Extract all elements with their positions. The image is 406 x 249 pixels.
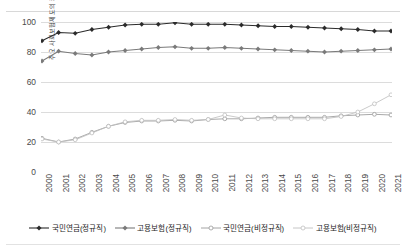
series-3-point-11 xyxy=(223,113,227,117)
series-2-point-11 xyxy=(223,117,227,121)
series-1-point-2 xyxy=(73,51,78,56)
y-tick-80: 80 xyxy=(6,48,36,56)
legend-item-3[interactable]: 고용보험(비정규직) xyxy=(293,222,377,233)
series-3-point-6 xyxy=(140,118,144,122)
series-0-point-21 xyxy=(389,29,392,34)
legend-marker-open-circle-icon xyxy=(201,224,221,232)
x-tick-2008: 2008 xyxy=(178,174,187,214)
series-2-point-20 xyxy=(373,112,377,116)
top-divider xyxy=(6,11,400,12)
legend-label-0: 국민연금(정규직) xyxy=(52,222,106,233)
x-tick-2001: 2001 xyxy=(62,174,71,214)
x-tick-2013: 2013 xyxy=(261,174,270,214)
x-axis-tick-labels: 2000200120022003200420052006200720082009… xyxy=(41,174,392,216)
series-1-point-3 xyxy=(89,53,94,58)
series-3-point-17 xyxy=(323,117,327,121)
series-1-point-10 xyxy=(206,46,211,51)
x-tick-2016: 2016 xyxy=(311,174,320,214)
plot-area xyxy=(41,22,392,172)
series-3-point-9 xyxy=(190,118,194,122)
series-3-point-7 xyxy=(156,118,160,122)
series-0-point-19 xyxy=(355,27,360,32)
series-3-point-14 xyxy=(273,117,277,121)
series-0-point-3 xyxy=(89,27,94,32)
series-3-point-8 xyxy=(173,118,177,122)
series-3-point-4 xyxy=(107,124,111,128)
series-0-point-2 xyxy=(73,31,78,36)
series-0-point-4 xyxy=(106,25,111,30)
series-0-point-0 xyxy=(41,38,44,43)
chart-figure: 주요 사회보험제도의 커버리지 020406080100 20002001200… xyxy=(0,0,406,249)
x-tick-2018: 2018 xyxy=(344,174,353,214)
series-3-point-1 xyxy=(57,140,61,144)
legend-label-2: 국민연금(비정규직) xyxy=(223,222,284,233)
series-3-point-3 xyxy=(90,131,94,135)
x-tick-2017: 2017 xyxy=(328,174,337,214)
series-0-point-14 xyxy=(272,24,277,29)
x-tick-2004: 2004 xyxy=(112,174,121,214)
series-3-point-20 xyxy=(373,102,377,106)
series-3-point-2 xyxy=(73,138,77,142)
series-line-2 xyxy=(42,114,391,142)
series-1-point-11 xyxy=(222,45,227,50)
series-0-point-17 xyxy=(322,26,327,31)
x-tick-2002: 2002 xyxy=(78,174,87,214)
series-0-point-15 xyxy=(289,24,294,29)
series-3-point-18 xyxy=(339,115,343,119)
series-0-point-20 xyxy=(372,29,377,34)
x-tick-2011: 2011 xyxy=(228,174,237,214)
legend-marker-filled-diamond-icon xyxy=(115,224,135,232)
series-3-point-19 xyxy=(356,110,360,114)
x-tick-2014: 2014 xyxy=(278,174,287,214)
chart-legend: 국민연금(정규직)고용보험(정규직)국민연금(비정규직)고용보험(비정규직) xyxy=(0,222,406,233)
legend-item-2[interactable]: 국민연금(비정규직) xyxy=(201,222,285,233)
x-tick-2019: 2019 xyxy=(361,174,370,214)
x-tick-2006: 2006 xyxy=(145,174,154,214)
x-tick-2021: 2021 xyxy=(394,174,403,214)
x-tick-2010: 2010 xyxy=(211,174,220,214)
series-2-point-21 xyxy=(389,113,392,117)
series-3-point-10 xyxy=(206,118,210,122)
series-0-point-18 xyxy=(339,26,344,31)
legend-item-1[interactable]: 고용보험(정규직) xyxy=(115,222,192,233)
series-0-point-12 xyxy=(239,23,244,28)
y-tick-40: 40 xyxy=(6,108,36,116)
series-1-point-21 xyxy=(389,47,392,52)
y-tick-0: 0 xyxy=(6,168,36,176)
legend-label-3: 고용보험(비정규직) xyxy=(316,222,377,233)
y-axis-tick-labels: 020406080100 xyxy=(0,0,36,172)
series-0-point-5 xyxy=(123,23,128,28)
series-1-point-6 xyxy=(139,47,144,52)
y-tick-100: 100 xyxy=(6,18,36,26)
series-1-point-9 xyxy=(189,46,194,51)
series-3-point-15 xyxy=(289,117,293,121)
series-1-point-14 xyxy=(272,47,277,52)
series-1-point-7 xyxy=(156,45,161,50)
series-line-0 xyxy=(42,23,391,41)
series-1-point-4 xyxy=(106,50,111,55)
legend-label-1: 고용보험(정규직) xyxy=(137,222,191,233)
series-line-1 xyxy=(42,47,391,61)
x-tick-2012: 2012 xyxy=(245,174,254,214)
series-3-point-21 xyxy=(389,93,392,97)
x-tick-2009: 2009 xyxy=(195,174,204,214)
y-tick-60: 60 xyxy=(6,78,36,86)
x-tick-2020: 2020 xyxy=(378,174,387,214)
x-tick-2007: 2007 xyxy=(162,174,171,214)
x-tick-2000: 2000 xyxy=(45,174,54,214)
legend-marker-filled-diamond-icon xyxy=(29,224,49,232)
x-tick-2015: 2015 xyxy=(294,174,303,214)
series-1-point-13 xyxy=(256,47,261,52)
legend-item-0[interactable]: 국민연금(정규직) xyxy=(29,222,106,233)
series-3-point-12 xyxy=(240,116,244,120)
series-0-point-1 xyxy=(56,30,61,35)
series-3-point-0 xyxy=(41,137,44,141)
series-1-point-12 xyxy=(239,46,244,51)
bottom-divider xyxy=(6,244,400,245)
series-1-point-17 xyxy=(322,50,327,55)
x-tick-2005: 2005 xyxy=(128,174,137,214)
series-1-point-8 xyxy=(173,44,178,49)
legend-marker-open-circle-icon xyxy=(293,224,313,232)
series-3-point-5 xyxy=(123,120,127,124)
series-3-point-13 xyxy=(256,117,260,121)
